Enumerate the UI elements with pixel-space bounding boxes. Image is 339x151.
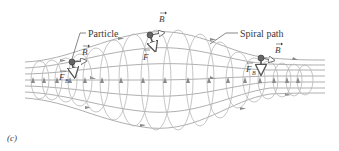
svg-text:B: B [252,70,256,76]
panel-label: (c) [7,133,17,143]
vector-label-f-right: F B [245,63,256,76]
vector-label-b-middle: B [159,12,167,25]
svg-text:B: B [82,47,88,57]
particle-label: Particle [88,28,119,39]
svg-text:F: F [58,72,65,82]
svg-text:F: F [245,64,252,74]
field-direction-arrows [60,37,298,127]
svg-text:F: F [142,52,149,62]
vector-label-b-right: B [275,43,283,56]
magnetic-bottle-diagram: Particle Spiral path B F B B F B F B (c) [0,0,339,151]
particle-middle [147,32,162,47]
svg-text:B: B [275,45,281,55]
vector-label-f-left: F B [58,71,69,84]
svg-text:B: B [159,14,165,24]
spiral-path-label: Spiral path [240,28,284,39]
vector-label-f-middle: F [142,50,150,62]
vector-label-b-left: B [82,45,90,58]
svg-text:B: B [65,78,69,84]
